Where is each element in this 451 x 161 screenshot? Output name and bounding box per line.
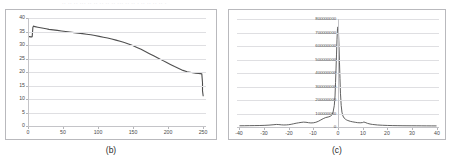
x-tick-label: -40 <box>229 131 249 136</box>
x-tick-label: 50 <box>53 130 73 135</box>
y-tick-label: 30 <box>7 42 25 47</box>
panel-b-caption: (b) <box>5 145 217 155</box>
x-tick-label: 150 <box>123 130 143 135</box>
x-tick-label: 200 <box>158 130 178 135</box>
gridline-y <box>28 99 206 100</box>
x-tick-label: 0 <box>328 131 348 136</box>
gridline-y <box>28 86 206 87</box>
chart-b-plot-area: 0510152025303540050100150200250 <box>28 18 206 126</box>
y-tick-label: 20 <box>7 69 25 74</box>
y-tick-label: 10 <box>7 96 25 101</box>
y-tick-label: 5 <box>7 110 25 115</box>
x-tick-label: -10 <box>303 131 323 136</box>
x-tick-label: 20 <box>377 131 397 136</box>
gridline-y <box>28 59 206 60</box>
panel-b: 0510152025303540050100150200250 (b) <box>5 9 217 161</box>
panel-c-frame: 0100000000200000000300000000400000000500… <box>228 9 446 140</box>
y-tick-label: 40 <box>7 15 25 20</box>
gridline-y <box>28 72 206 73</box>
y-axis-line <box>28 18 29 126</box>
x-tick-label: 40 <box>427 131 447 136</box>
y-tick-label: 800000000 <box>315 17 336 21</box>
x-tick-label: 250 <box>193 130 213 135</box>
x-tick-label: 0 <box>18 130 38 135</box>
y-tick-label: 300000000 <box>315 85 336 89</box>
x-tick-label: 30 <box>402 131 422 136</box>
y-tick-label: 15 <box>7 83 25 88</box>
gridline-y <box>28 18 206 19</box>
y-tick-label: 0 <box>7 123 25 128</box>
y-tick-label: 500000000 <box>315 58 336 62</box>
figure-page: ·· ·· ·· ··· ·· ·· ·· ·· ·· ··· ·· ·· · … <box>0 0 451 161</box>
y-tick-label: 600000000 <box>315 44 336 48</box>
x-tick-label: 100 <box>88 130 108 135</box>
x-tick-label: -30 <box>254 131 274 136</box>
panel-c-caption: (c) <box>228 145 446 155</box>
y-tick-label: 25 <box>7 56 25 61</box>
chart-c-plot-area: 0100000000200000000300000000400000000500… <box>237 19 439 127</box>
y-tick-label: 200000000 <box>315 98 336 102</box>
y-tick-label: 700000000 <box>315 31 336 35</box>
gridline-y <box>28 32 206 33</box>
y-tick-label: 0 <box>334 125 336 129</box>
y-tick-label: 100000000 <box>315 112 336 116</box>
x-tick-label: 10 <box>353 131 373 136</box>
x-tick-label: -20 <box>279 131 299 136</box>
y-tick-label: 35 <box>7 29 25 34</box>
x-axis-line <box>28 126 206 127</box>
y-tick-label: 400000000 <box>315 71 336 75</box>
panel-c: 0100000000200000000300000000400000000500… <box>228 9 446 161</box>
gridline-y <box>28 45 206 46</box>
cut-off-header-text: ·· ·· ·· ··· ·· ·· ·· ·· ·· ··· ·· ·· · … <box>62 0 312 6</box>
gridline-y <box>28 113 206 114</box>
y-axis-line <box>338 19 339 127</box>
panel-b-frame: 0510152025303540050100150200250 <box>5 9 217 140</box>
